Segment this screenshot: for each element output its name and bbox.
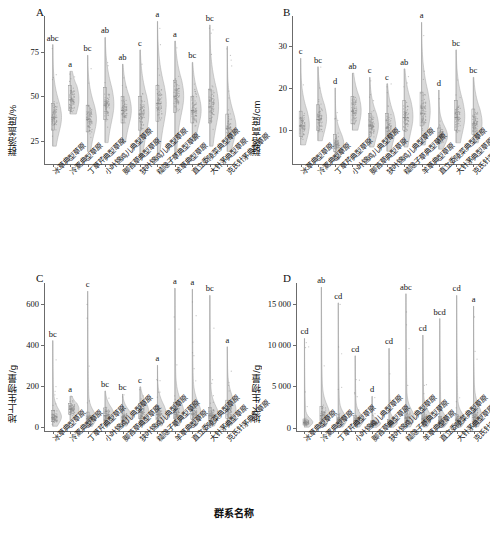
- data-point: [211, 383, 212, 384]
- data-point: [195, 100, 196, 101]
- data-point: [228, 97, 229, 98]
- data-point: [175, 95, 176, 96]
- data-point: [353, 115, 354, 116]
- data-point: [195, 118, 196, 119]
- data-point: [354, 118, 355, 119]
- data-point: [143, 110, 144, 111]
- data-point: [191, 116, 192, 117]
- data-point: [388, 106, 389, 107]
- data-point: [104, 115, 105, 116]
- data-point: [306, 422, 307, 423]
- data-point: [389, 124, 390, 125]
- data-point: [191, 100, 192, 101]
- data-point: [459, 130, 460, 131]
- violin-plot-layer-D: [245, 267, 490, 534]
- data-point: [53, 111, 54, 112]
- data-point: [105, 109, 106, 110]
- data-point: [455, 124, 456, 125]
- data-point: [52, 116, 53, 117]
- data-point: [139, 114, 140, 115]
- data-point: [352, 112, 353, 113]
- significance-letter: a: [420, 10, 424, 20]
- data-point: [356, 379, 357, 380]
- data-point: [159, 380, 160, 381]
- data-point: [196, 115, 197, 116]
- data-point: [108, 94, 109, 95]
- data-point: [425, 106, 426, 107]
- data-point: [192, 118, 193, 119]
- data-point: [387, 126, 388, 127]
- data-point: [305, 391, 306, 392]
- data-point: [373, 129, 374, 130]
- data-point: [161, 101, 162, 102]
- data-point: [318, 122, 319, 123]
- data-point: [407, 129, 408, 130]
- data-point: [56, 74, 57, 75]
- data-point: [123, 113, 124, 114]
- data-point: [373, 131, 374, 132]
- data-point: [403, 126, 404, 127]
- data-point: [420, 114, 421, 115]
- data-point: [159, 74, 160, 75]
- data-point: [212, 94, 213, 95]
- data-point: [369, 96, 370, 97]
- data-point: [69, 405, 70, 406]
- data-point: [403, 111, 404, 112]
- data-point: [421, 119, 422, 120]
- data-point: [192, 301, 193, 302]
- data-point: [211, 98, 212, 99]
- data-point: [210, 106, 211, 107]
- data-point: [341, 353, 342, 354]
- data-point: [109, 107, 110, 108]
- data-point: [70, 105, 71, 106]
- data-point: [175, 98, 176, 99]
- data-point: [404, 116, 405, 117]
- data-point: [423, 109, 424, 110]
- data-point: [352, 106, 353, 107]
- data-point: [158, 114, 159, 115]
- data-point: [458, 123, 459, 124]
- data-point: [158, 112, 159, 113]
- data-point: [69, 108, 70, 109]
- data-point: [158, 91, 159, 92]
- data-point: [142, 93, 143, 94]
- data-point: [456, 130, 457, 131]
- data-point: [90, 137, 91, 138]
- data-point: [369, 121, 370, 122]
- data-point: [158, 94, 159, 95]
- data-point: [226, 48, 227, 49]
- significance-letter: a: [68, 384, 72, 394]
- data-point: [389, 125, 390, 126]
- data-point: [390, 120, 391, 121]
- data-point: [303, 127, 304, 128]
- data-point: [320, 103, 321, 104]
- data-point: [108, 105, 109, 106]
- data-point: [308, 423, 309, 424]
- data-point: [174, 105, 175, 106]
- data-point: [318, 119, 319, 120]
- data-point: [157, 115, 158, 116]
- data-point: [213, 328, 214, 329]
- data-point: [144, 117, 145, 118]
- data-point: [474, 117, 475, 118]
- data-point: [228, 90, 229, 91]
- data-point: [210, 410, 211, 411]
- data-point: [177, 92, 178, 93]
- data-point: [386, 127, 387, 128]
- data-point: [403, 108, 404, 109]
- data-point: [157, 99, 158, 100]
- data-point: [386, 86, 387, 87]
- data-point: [473, 127, 474, 128]
- data-point: [56, 106, 57, 107]
- data-point: [304, 419, 305, 420]
- significance-letter: cd: [334, 291, 342, 301]
- data-point: [108, 398, 109, 399]
- data-point: [54, 422, 55, 423]
- data-point: [212, 379, 213, 380]
- data-point: [458, 121, 459, 122]
- data-point: [104, 82, 105, 83]
- data-point: [337, 139, 338, 140]
- data-point: [213, 110, 214, 111]
- data-point: [373, 123, 374, 124]
- data-point: [424, 121, 425, 122]
